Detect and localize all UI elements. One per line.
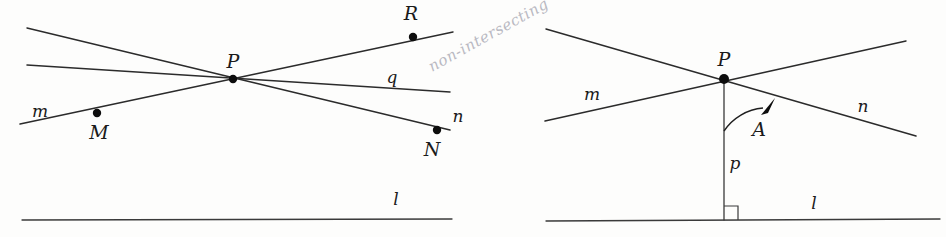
left-line-l (22, 219, 452, 220)
right-line-m-label: m (584, 84, 600, 104)
right-point-p-label: P (717, 48, 732, 70)
left-line-m-label: m (32, 101, 48, 121)
left-point-m-label: M (88, 121, 109, 143)
geometry-figure: P M R N m q n l non-intersecting (0, 0, 946, 237)
right-angle-square-icon (724, 206, 738, 220)
right-point-p-dot (719, 74, 729, 84)
left-point-p-dot (229, 75, 237, 83)
left-point-n-dot (433, 126, 441, 134)
left-point-n-label: N (423, 138, 442, 160)
right-line-l (546, 219, 940, 221)
right-line-n (546, 29, 916, 136)
left-point-r-label: R (403, 2, 418, 24)
left-point-p-label: P (226, 50, 241, 72)
left-line-q-label: q (387, 67, 398, 87)
handwritten-annotation: non-intersecting (425, 0, 551, 75)
right-line-l-label: l (811, 193, 816, 213)
right-line-n-label: n (858, 96, 869, 116)
left-point-r-dot (409, 33, 417, 41)
left-panel-group: P M R N m q n l (20, 2, 463, 220)
right-line-p-label: p (730, 153, 741, 173)
angle-arc-arrowhead-icon (761, 98, 775, 115)
left-line-l-label: l (393, 189, 398, 209)
left-line-n-label: n (453, 106, 464, 126)
figure-canvas: P M R N m q n l non-intersecting (0, 0, 946, 237)
right-angle-a-label: A (750, 118, 766, 140)
left-point-m-dot (93, 109, 101, 117)
right-panel-group: P m n p l A (545, 29, 940, 221)
